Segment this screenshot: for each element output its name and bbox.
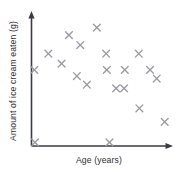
data-point-marker: [161, 119, 168, 126]
scatter-chart: Age (years) Amount of ice cream eaten (g…: [0, 0, 185, 172]
data-point-marker: [121, 85, 128, 92]
y-axis: [28, 11, 34, 146]
chart-canvas: Age (years) Amount of ice cream eaten (g…: [0, 0, 185, 172]
data-point-marker: [136, 105, 143, 112]
data-point-marker: [121, 66, 128, 73]
x-axis-label: Age (years): [76, 155, 122, 165]
data-point-group: [31, 24, 168, 146]
data-point-marker: [66, 32, 73, 39]
data-point-marker: [147, 66, 154, 73]
data-point-marker: [106, 139, 113, 146]
x-axis-arrowhead: [166, 143, 174, 149]
data-point-marker: [32, 139, 39, 146]
data-point-marker: [45, 50, 52, 57]
data-point-marker: [103, 66, 110, 73]
y-axis-arrowhead: [28, 11, 34, 19]
data-point-marker: [113, 85, 120, 92]
data-point-marker: [153, 75, 160, 82]
data-point-marker: [77, 42, 84, 49]
data-point-marker: [103, 50, 110, 57]
data-point-marker: [135, 50, 142, 57]
x-axis: [32, 143, 174, 149]
data-point-marker: [83, 81, 90, 88]
data-point-marker: [93, 24, 100, 31]
data-point-marker: [73, 73, 80, 80]
y-axis-label: Amount of ice cream eaten (g): [8, 21, 18, 141]
data-point-marker: [58, 60, 65, 67]
